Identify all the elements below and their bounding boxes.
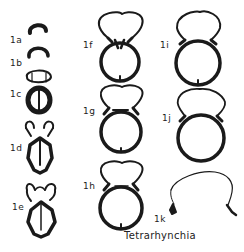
section-1i-shape <box>176 12 220 85</box>
section-label-1d: 1d <box>10 143 22 153</box>
serial-sections-drawing <box>0 0 244 252</box>
section-label-1j: 1j <box>162 113 171 123</box>
section-1j-shape <box>178 89 226 161</box>
section-1g-shape <box>101 85 143 152</box>
section-label-1k: 1k <box>154 214 166 224</box>
section-label-1i: 1i <box>160 40 169 50</box>
section-1c-shape <box>27 71 51 112</box>
section-label-1c: 1c <box>10 89 22 99</box>
section-label-1g: 1g <box>83 106 95 116</box>
section-1d-shape <box>26 122 54 173</box>
section-1h-shape <box>100 161 143 229</box>
section-1f-shape <box>99 12 143 81</box>
section-1b-shape <box>29 48 48 57</box>
section-1e-shape <box>27 184 56 237</box>
section-label-1e: 1e <box>12 202 24 212</box>
section-label-1f: 1f <box>83 40 93 50</box>
section-1a-shape <box>30 25 46 33</box>
section-label-1b: 1b <box>10 58 22 68</box>
figure-caption: Tetrarhynchia <box>124 230 196 241</box>
section-1k-shape <box>170 172 236 215</box>
section-label-1h: 1h <box>83 181 95 191</box>
section-label-1a: 1a <box>10 35 22 45</box>
